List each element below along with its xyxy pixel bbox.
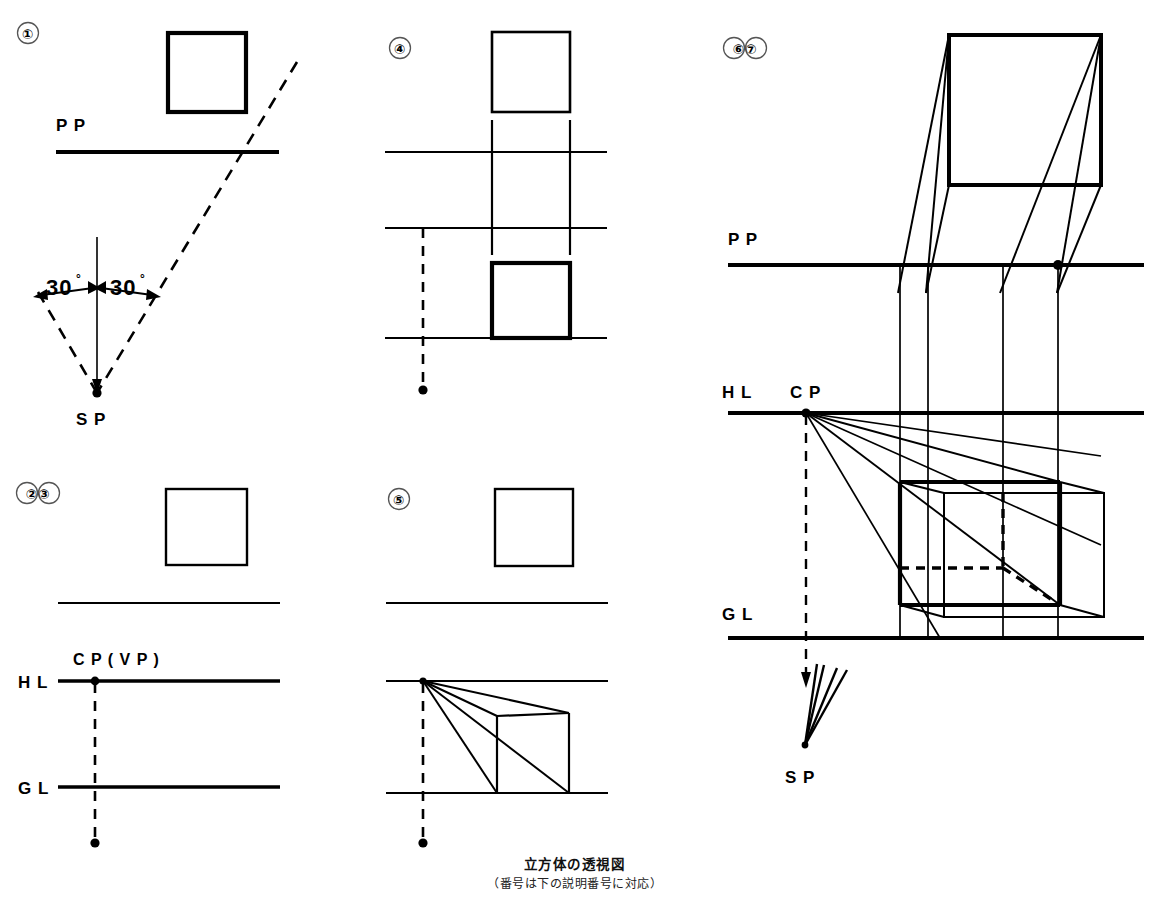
panel-1-angle-right-degree: ° — [140, 272, 146, 286]
panel-67-group: ⑥⑦ P P H L C P — [722, 35, 1144, 787]
panel-1-angle-right-value: 30 — [110, 275, 136, 300]
panel-23-gl-label: G L — [18, 779, 49, 798]
panel-67-sight-ray-1 — [898, 35, 949, 293]
panel-67-vanishing-ray-2 — [806, 413, 1060, 482]
panel-23-plan-square — [166, 489, 247, 565]
cube-connector-tr — [1060, 482, 1104, 493]
panel-23-step-badge: ②③ — [17, 483, 60, 504]
panel-67-pp-label: P P — [728, 230, 758, 249]
panel-23-hl-label: H L — [18, 673, 48, 692]
panel-67-cube — [900, 482, 1104, 617]
caption-title: 立方体の透視図 — [0, 855, 1149, 875]
cube-front-square — [944, 493, 1104, 617]
panel-4-group: ④ — [385, 32, 607, 395]
panel-23-step-number: ②③ — [26, 487, 51, 502]
panel-1-sight-ray-left — [38, 292, 97, 393]
panel-4-step-badge: ④ — [390, 38, 411, 59]
panel-67-plan-square — [949, 35, 1101, 185]
panel-5-step-badge: ⑤ — [389, 489, 410, 510]
panel-67-sight-ray-2 — [926, 35, 949, 293]
panel-1-step-number: ① — [22, 27, 34, 42]
panel-67-step-badge: ⑥⑦ — [724, 38, 767, 59]
panel-67-sight-ray-3 — [1000, 35, 1101, 293]
cube-connector-br — [1060, 605, 1104, 617]
panel-4-step-number: ④ — [394, 42, 406, 57]
panel-5-group: ⑤ — [386, 489, 608, 848]
panel-5-plan-square — [495, 489, 573, 566]
panel-1-sp-point — [92, 388, 101, 397]
panel-23-sp-point — [90, 838, 99, 847]
panel-1-angle-left-value: 30 — [46, 275, 72, 300]
panel-67-gl-label: G L — [722, 605, 753, 624]
figure-caption: 立方体の透視図 （番号は下の説明番号に対応） — [0, 855, 1149, 893]
panel-1-group: ① P P S P — [18, 23, 298, 430]
panel-1-angle-left-degree: ° — [76, 272, 82, 286]
panel-1-plan-square — [168, 33, 246, 112]
panel-67-cp-arrowhead — [801, 672, 811, 688]
panel-67-cp-label: C P — [790, 383, 821, 402]
panel-67-sp-label: S P — [785, 768, 815, 787]
panel-67-sight-ray-5 — [926, 185, 949, 293]
perspective-construction-diagram: ① P P S P — [0, 0, 1149, 920]
panel-1-step-badge: ① — [18, 23, 39, 44]
panel-5-sp-point — [418, 838, 427, 847]
panel-1-pp-label: P P — [56, 116, 86, 135]
figure-root: ① P P S P — [0, 0, 1149, 920]
panel-1-sp-label: S P — [76, 410, 106, 429]
panel-23-group: ②③ C P ( V P ) H L G L — [17, 483, 281, 848]
panel-4-elevation-square — [492, 263, 570, 338]
panel-67-sp-point — [802, 742, 809, 749]
panel-4-plan-square — [492, 32, 570, 112]
panel-23-cp-vp-label: C P ( V P ) — [73, 651, 160, 668]
panel-67-vanishing-ray-1 — [806, 413, 1101, 456]
panel-67-sight-ray-4 — [1057, 35, 1101, 293]
panel-67-sp-rays — [805, 664, 847, 745]
panel-5-step-number: ⑤ — [393, 493, 405, 508]
panel-5-face-top — [497, 713, 569, 716]
panel-67-step-number: ⑥⑦ — [733, 42, 758, 57]
panel-67-sight-ray-6 — [1057, 185, 1101, 293]
panel-4-sp-point — [418, 385, 427, 394]
caption-note: （番号は下の説明番号に対応） — [0, 875, 1149, 893]
panel-67-hl-label: H L — [722, 383, 752, 402]
